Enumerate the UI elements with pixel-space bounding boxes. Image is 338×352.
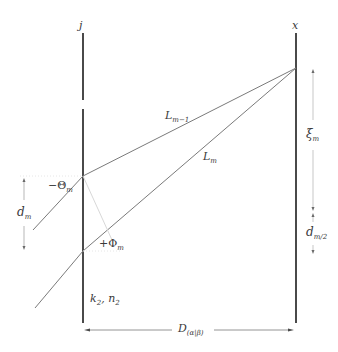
label-phi-m: +Φm xyxy=(99,238,124,252)
label-d-m: dm xyxy=(17,206,31,221)
label-x: x xyxy=(292,20,298,31)
label-medium-k2-n2: k2, n2 xyxy=(90,293,120,307)
label-L-m: Lm xyxy=(203,151,217,165)
ray-upper xyxy=(33,68,296,230)
label-xi-m: ξm xyxy=(306,128,319,143)
label-L-m-1: Lm−1 xyxy=(165,110,189,124)
construction-line xyxy=(83,176,112,240)
label-j: j xyxy=(79,20,82,31)
ray-diagram xyxy=(0,0,338,352)
label-d-m2: dm/2 xyxy=(306,226,327,241)
label-theta-m: −Θm xyxy=(48,180,73,194)
label-D: D(α|β) xyxy=(178,323,203,337)
ray-lower xyxy=(35,68,296,308)
